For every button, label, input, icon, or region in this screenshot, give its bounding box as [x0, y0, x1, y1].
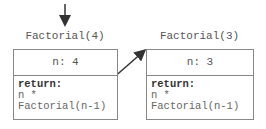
stack-frame-factorial-4: n: 4 return: n * Factorial(n-1)	[13, 49, 118, 120]
return-section: return: n * Factorial(n-1)	[147, 76, 253, 115]
frame-title-3: Factorial(3)	[146, 30, 253, 42]
return-expr-line2: Factorial(n-1)	[18, 101, 113, 112]
stack-frame-factorial-3: n: 3 return: n * Factorial(n-1)	[146, 49, 254, 120]
variable-n: n: 4	[14, 50, 117, 76]
return-section: return: n * Factorial(n-1)	[14, 76, 117, 115]
frame-title-4: Factorial(4)	[13, 30, 117, 42]
variable-n: n: 3	[147, 50, 253, 76]
return-expr-line2: Factorial(n-1)	[151, 101, 249, 112]
